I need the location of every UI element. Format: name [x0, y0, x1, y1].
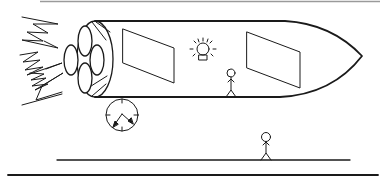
illustration-canvas — [0, 0, 385, 179]
rocket-body — [77, 21, 362, 97]
rocket-window-left — [123, 29, 174, 83]
clock-icon — [106, 99, 138, 131]
passenger-figure-icon — [226, 69, 236, 97]
rocket-engines-icon — [64, 26, 104, 93]
exhaust-flames-icon — [20, 17, 63, 105]
light-bulb-icon — [190, 38, 216, 60]
ground-figure-icon — [261, 133, 271, 161]
rocket-window-right — [247, 32, 300, 88]
rocket-illustration: Rocket ship with passengers, clock, and … — [0, 0, 385, 179]
